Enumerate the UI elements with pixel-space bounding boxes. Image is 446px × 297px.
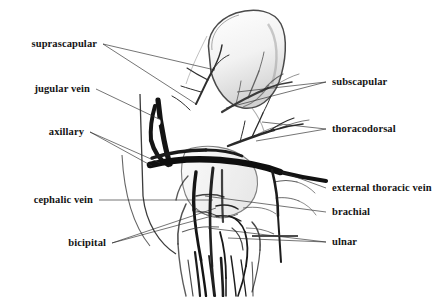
- leader-suprascapular-2: [103, 44, 196, 104]
- label-subscapular: subscapular: [332, 77, 387, 88]
- label-bicipital: bicipital: [68, 238, 106, 249]
- anatomical-figure: suprascapularjugular veinaxillarycephali…: [0, 0, 446, 297]
- label-external-thoracic-vein: external thoracic vein: [332, 183, 432, 194]
- leader-thoracodorsal-2: [256, 129, 326, 141]
- leader-axillary-2: [90, 132, 152, 166]
- label-suprascapular: suprascapular: [32, 39, 97, 50]
- label-brachial: brachial: [332, 207, 370, 218]
- leader-bicipital-1: [112, 208, 216, 243]
- label-cephalic-vein: cephalic vein: [34, 195, 93, 206]
- distal-vessel-bundle: [188, 252, 253, 296]
- scapula-shape: [208, 10, 285, 131]
- label-axillary: axillary: [49, 127, 84, 138]
- external-thoracic-vein-vessel: [272, 170, 316, 262]
- label-jugular-vein: jugular vein: [34, 84, 90, 95]
- label-thoracodorsal: thoracodorsal: [332, 124, 396, 135]
- label-ulnar: ulnar: [332, 237, 357, 248]
- leader-suprascapular-1: [103, 44, 215, 70]
- leader-jugular-vein-1: [96, 89, 161, 120]
